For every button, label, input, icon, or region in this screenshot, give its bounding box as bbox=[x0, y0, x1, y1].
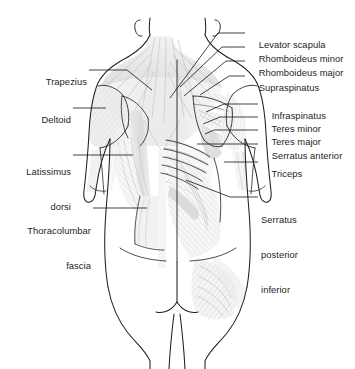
label-serratus-posterior-inferior: Serratus posterior inferior bbox=[261, 191, 298, 319]
label-latissimus-dorsi-line1: Latissimus bbox=[26, 166, 71, 178]
label-deltoid: Deltoid bbox=[31, 102, 71, 137]
label-triceps: Triceps bbox=[261, 156, 302, 191]
label-thoracolumbar-fascia: Thoracolumbar fascia bbox=[27, 202, 91, 295]
label-serratus-posterior-inferior-line2: posterior bbox=[261, 249, 298, 261]
label-serratus-posterior-inferior-line3: inferior bbox=[261, 284, 298, 296]
label-deltoid-text: Deltoid bbox=[41, 114, 71, 125]
label-thoracolumbar-fascia-line1: Thoracolumbar bbox=[27, 225, 91, 237]
label-thoracolumbar-fascia-line2: fascia bbox=[27, 260, 91, 272]
label-trapezius: Trapezius bbox=[35, 64, 87, 99]
anatomy-figure: Trapezius Deltoid Latissimus dorsi Thora… bbox=[0, 0, 355, 369]
label-triceps-text: Triceps bbox=[271, 168, 302, 179]
label-serratus-posterior-inferior-line1: Serratus bbox=[261, 214, 298, 226]
label-trapezius-text: Trapezius bbox=[46, 76, 87, 87]
label-supraspinatus-text: Supraspinatus bbox=[259, 82, 320, 93]
